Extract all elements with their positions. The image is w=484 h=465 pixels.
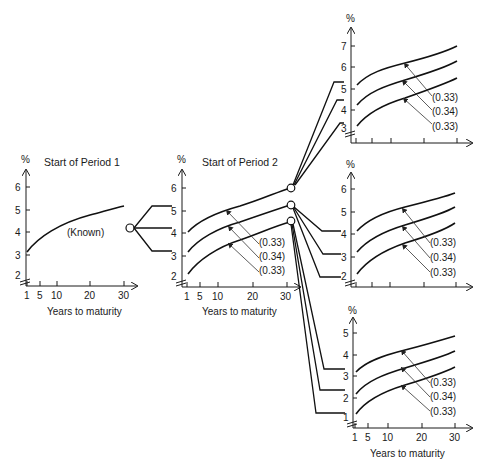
y-units-label: %: [348, 305, 357, 316]
svg-text:3: 3: [341, 252, 347, 263]
svg-text:3: 3: [15, 250, 21, 261]
branch-line-down: [134, 228, 172, 251]
svg-text:10: 10: [51, 290, 63, 301]
svg-text:10: 10: [212, 291, 224, 302]
svg-text:1: 1: [343, 412, 349, 423]
branch-leads: [291, 82, 345, 413]
axis-break-icon: [176, 280, 186, 286]
probability-pointer: [228, 243, 259, 272]
probability-label: (0.33): [432, 92, 458, 103]
svg-text:1: 1: [352, 432, 358, 443]
svg-text:3: 3: [343, 371, 349, 382]
probability-label: (0.33): [430, 377, 456, 388]
tree-node-high: [287, 184, 295, 192]
svg-text:20: 20: [247, 291, 259, 302]
svg-text:4: 4: [343, 350, 349, 361]
probability-label: (0.34): [432, 106, 458, 117]
probability-pointer: [401, 367, 430, 397]
probability-pointer: [402, 80, 432, 110]
y-units-label: %: [21, 154, 30, 165]
svg-text:6: 6: [341, 62, 347, 73]
probability-label: (0.34): [259, 251, 285, 262]
panel-period-1: % Start of Period 1 6 5 4 3 2 1 5 10 20 …: [15, 154, 172, 317]
x-ticks: [356, 282, 456, 287]
svg-text:20: 20: [84, 290, 96, 301]
y-units-label: %: [177, 154, 186, 165]
svg-text:5: 5: [341, 84, 347, 95]
probability-label: (0.33): [430, 267, 456, 278]
tree-node-mid: [287, 201, 295, 209]
panel-title: Start of Period 2: [202, 156, 278, 168]
svg-text:5: 5: [15, 205, 21, 216]
svg-text:6: 6: [341, 184, 347, 195]
probability-label: (0.33): [259, 237, 285, 248]
svg-text:5: 5: [343, 328, 349, 339]
svg-text:30: 30: [118, 290, 130, 301]
svg-text:30: 30: [449, 432, 461, 443]
svg-text:5: 5: [37, 290, 43, 301]
probability-pointer: [402, 244, 430, 272]
svg-text:3: 3: [341, 123, 347, 134]
svg-text:2: 2: [15, 270, 21, 281]
probability-pointer: [403, 98, 432, 124]
known-label: (Known): [67, 227, 104, 238]
svg-text:7: 7: [341, 41, 347, 52]
probability-label: (0.34): [430, 252, 456, 263]
tree-node-low: [287, 217, 295, 225]
panel-title: Start of Period 1: [44, 156, 120, 168]
x-ticks: 1 5 10 20 30: [24, 281, 130, 301]
x-ticks: 1 5 10 20 30: [352, 423, 461, 443]
x-ticks: 1 5 10 20 30: [184, 282, 292, 302]
probability-label: (0.33): [259, 265, 285, 276]
panel-period-3-high: % 7 6 5 4 3 (0.33) (0.34) (0.33): [341, 13, 472, 143]
tree-node-period-1: [126, 224, 134, 232]
axis-break-icon: [20, 279, 30, 285]
svg-text:1: 1: [184, 291, 190, 302]
svg-text:1: 1: [24, 290, 30, 301]
probability-label: (0.33): [430, 406, 456, 417]
svg-text:2: 2: [341, 271, 347, 282]
x-axis-label: Years to maturity: [370, 448, 445, 459]
svg-text:30: 30: [280, 291, 292, 302]
y-units-label: %: [346, 13, 355, 24]
svg-text:5: 5: [341, 207, 347, 218]
svg-text:5: 5: [365, 432, 371, 443]
branch-line-up: [134, 206, 172, 228]
svg-text:4: 4: [341, 229, 347, 240]
yield-curve-high: [356, 336, 455, 372]
panel-period-2: % Start of Period 2 6 5 4 3 2 1 5 10 20 …: [171, 154, 300, 317]
svg-text:6: 6: [15, 182, 21, 193]
y-ticks: 7 6 5 4 3: [341, 41, 355, 137]
x-ticks: [356, 138, 457, 143]
y-ticks: 6 5 4 3 2: [341, 184, 355, 286]
interest-rate-tree-diagram: % Start of Period 1 6 5 4 3 2 1 5 10 20 …: [0, 0, 484, 465]
svg-text:4: 4: [15, 227, 21, 238]
probability-label: (0.33): [432, 121, 458, 132]
probability-pointer: [401, 350, 430, 383]
svg-text:10: 10: [382, 432, 394, 443]
probability-pointer: [402, 208, 430, 243]
x-axis-label: Years to maturity: [202, 306, 277, 317]
x-axis-label: Years to maturity: [47, 306, 122, 317]
probability-label: (0.34): [430, 391, 456, 402]
svg-text:3: 3: [171, 251, 177, 262]
panel-period-3-low: % 5 4 3 2 1 1 5 10 20 30 Years to maturi…: [343, 305, 472, 459]
y-ticks: 6 5 4 3 2: [15, 182, 30, 285]
panel-period-3-mid: % 6 5 4 3 2 (0.33) (0.34) (0.33): [341, 159, 472, 287]
svg-text:2: 2: [343, 393, 349, 404]
svg-text:6: 6: [171, 183, 177, 194]
y-ticks: 5 4 3 2 1: [343, 328, 357, 427]
svg-text:5: 5: [171, 206, 177, 217]
probability-label: (0.33): [430, 237, 456, 248]
svg-text:4: 4: [341, 105, 347, 116]
svg-text:20: 20: [416, 432, 428, 443]
svg-text:2: 2: [171, 271, 177, 282]
y-ticks: 6 5 4 3 2: [171, 183, 186, 286]
probability-pointer: [401, 385, 430, 411]
svg-text:5: 5: [197, 291, 203, 302]
svg-text:4: 4: [171, 228, 177, 239]
y-units-label: %: [346, 159, 355, 170]
